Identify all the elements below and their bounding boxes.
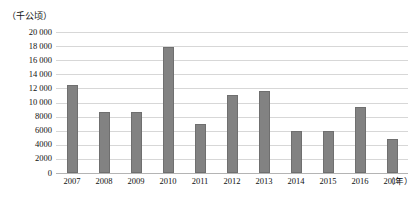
x-axis-tick-label: 2015: [320, 176, 337, 186]
y-axis-tick-label: 14 000: [2, 70, 52, 79]
bar: [291, 131, 302, 173]
x-axis-tick-labels: 2007200820092010201120122013201420152016…: [56, 176, 408, 190]
bar: [323, 131, 334, 173]
axis-baseline: [56, 173, 408, 174]
bar: [387, 139, 398, 173]
bar: [131, 112, 142, 173]
bar: [355, 107, 366, 173]
y-axis-tick-label: 20 000: [2, 28, 52, 37]
x-axis-tick-label: 2014: [288, 176, 305, 186]
y-axis-tick-label: 0: [2, 169, 52, 178]
bar: [163, 47, 174, 173]
y-axis-unit-label: （千公顷）: [7, 11, 52, 22]
y-axis-tick-label: 8000: [2, 112, 52, 121]
bar: [259, 91, 270, 173]
bar: [195, 124, 206, 173]
y-axis-tick-label: 18 000: [2, 42, 52, 51]
x-axis-tick-label: 2013: [256, 176, 273, 186]
x-axis-tick-label: 2011: [192, 176, 209, 186]
x-axis-tick-label: 2009: [128, 176, 145, 186]
x-axis-tick-label: 2016: [352, 176, 369, 186]
y-axis-tick-label: 10 000: [2, 98, 52, 107]
x-axis-tick-label: 2008: [96, 176, 113, 186]
bar: [67, 85, 78, 173]
x-axis-tick-label: 2007: [64, 176, 81, 186]
y-axis-tick-label: 12 000: [2, 84, 52, 93]
y-axis-tick-label: 4000: [2, 140, 52, 149]
x-axis-tick-label: 2010: [160, 176, 177, 186]
bar-series: [56, 32, 408, 173]
bar: [227, 95, 238, 173]
y-axis-tick-label: 16 000: [2, 56, 52, 65]
x-axis-unit-label: （年）: [386, 176, 413, 186]
y-axis-tick-label: 6000: [2, 126, 52, 135]
bar: [99, 112, 110, 173]
y-axis-tick-label: 2000: [2, 154, 52, 163]
x-axis-tick-label: 2012: [224, 176, 241, 186]
bar-chart: （千公顷） 0200040006000800010 00012 00014 00…: [0, 0, 419, 205]
y-axis-tick-labels: 0200040006000800010 00012 00014 00016 00…: [0, 32, 52, 173]
